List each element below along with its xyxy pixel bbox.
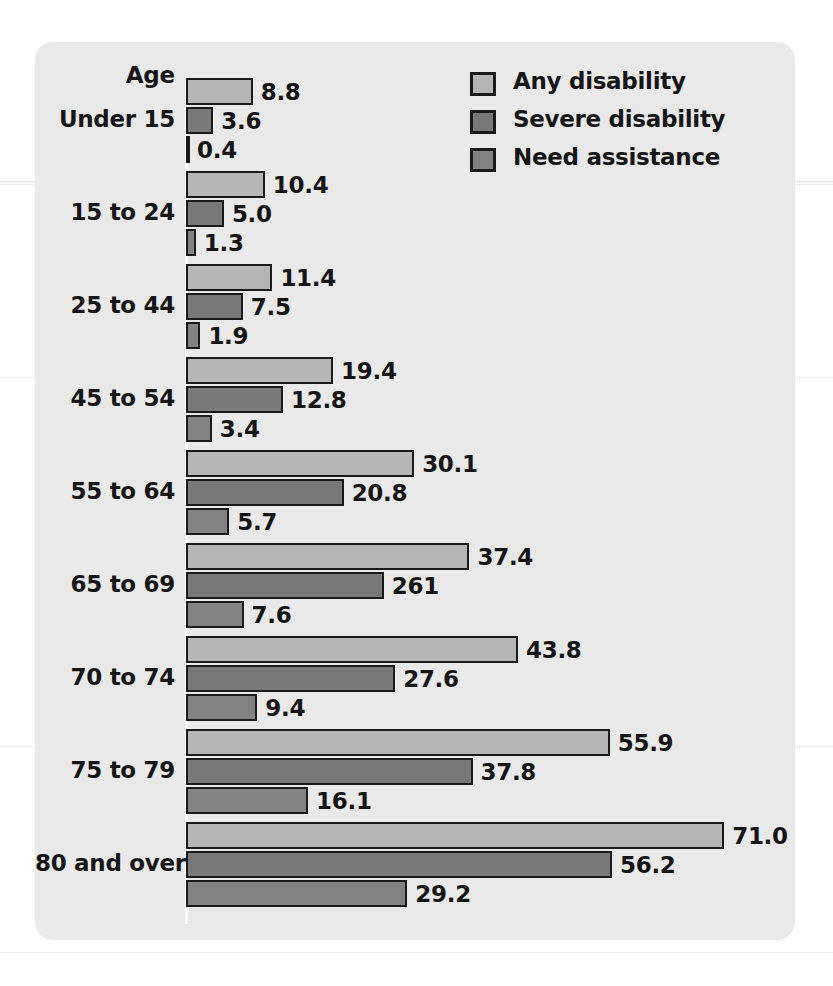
bar[interactable] bbox=[186, 264, 272, 291]
category-label: 75 to 79 bbox=[35, 757, 175, 783]
bar-value-label: 12.8 bbox=[291, 387, 347, 413]
chart-card: Age Under 158.83.60.415 to 2410.45.01.32… bbox=[35, 42, 795, 940]
bar-value-label: 27.6 bbox=[403, 666, 459, 692]
category-label: 45 to 54 bbox=[35, 385, 175, 411]
legend-label: Any disability bbox=[513, 68, 686, 94]
bar-value-label: 5.7 bbox=[237, 509, 277, 535]
bar-value-label: 10.4 bbox=[273, 172, 329, 198]
bar-group: 75 to 7955.937.816.1 bbox=[35, 727, 795, 820]
legend-swatch-icon bbox=[470, 110, 496, 134]
bar[interactable] bbox=[186, 293, 243, 320]
chart-legend: Any disabilitySevere disabilityNeed assi… bbox=[470, 68, 770, 182]
scan-artifact-line bbox=[0, 952, 833, 953]
bar[interactable] bbox=[186, 543, 469, 570]
legend-swatch-icon bbox=[470, 148, 496, 172]
bar[interactable] bbox=[186, 171, 265, 198]
bar-value-label: 1.9 bbox=[208, 323, 248, 349]
bar[interactable] bbox=[186, 107, 213, 134]
bar-value-label: 3.4 bbox=[220, 416, 260, 442]
bar[interactable] bbox=[186, 880, 407, 907]
bar[interactable] bbox=[186, 729, 610, 756]
bar[interactable] bbox=[186, 787, 308, 814]
bar-value-label: 37.4 bbox=[477, 544, 533, 570]
category-label: 80 and over bbox=[35, 850, 175, 876]
bar-group: 70 to 7443.827.69.4 bbox=[35, 634, 795, 727]
bar[interactable] bbox=[186, 136, 190, 163]
bar[interactable] bbox=[186, 694, 257, 721]
legend-item[interactable]: Any disability bbox=[470, 68, 770, 106]
bar-value-label: 71.0 bbox=[732, 823, 788, 849]
bar-value-label: 56.2 bbox=[620, 852, 676, 878]
bar-value-label: 9.4 bbox=[265, 695, 305, 721]
bar[interactable] bbox=[186, 200, 224, 227]
bar[interactable] bbox=[186, 479, 344, 506]
bar[interactable] bbox=[186, 508, 229, 535]
legend-item[interactable]: Severe disability bbox=[470, 106, 770, 144]
category-label: 70 to 74 bbox=[35, 664, 175, 690]
bar-value-label: 7.6 bbox=[252, 602, 292, 628]
category-label: Under 15 bbox=[35, 106, 175, 132]
bar-value-label: 3.6 bbox=[221, 108, 261, 134]
bar-group: 55 to 6430.120.85.7 bbox=[35, 448, 795, 541]
legend-label: Need assistance bbox=[513, 144, 720, 170]
bar-group: 25 to 4411.47.51.9 bbox=[35, 262, 795, 355]
bar[interactable] bbox=[186, 758, 473, 785]
category-label: 25 to 44 bbox=[35, 292, 175, 318]
bar-value-label: 0.4 bbox=[197, 137, 237, 163]
plot-area: Age Under 158.83.60.415 to 2410.45.01.32… bbox=[35, 42, 795, 940]
bar-value-label: 43.8 bbox=[526, 637, 582, 663]
bar[interactable] bbox=[186, 572, 384, 599]
bar-value-label: 5.0 bbox=[232, 201, 272, 227]
category-label: 15 to 24 bbox=[35, 199, 175, 225]
category-label: 55 to 64 bbox=[35, 478, 175, 504]
bar[interactable] bbox=[186, 450, 414, 477]
bar[interactable] bbox=[186, 601, 244, 628]
bar[interactable] bbox=[186, 415, 212, 442]
legend-swatch-icon bbox=[470, 72, 496, 96]
bar[interactable] bbox=[186, 386, 283, 413]
bar-value-label: 261 bbox=[392, 573, 439, 599]
bar[interactable] bbox=[186, 851, 612, 878]
bar-value-label: 8.8 bbox=[261, 79, 301, 105]
bar-value-label: 1.3 bbox=[204, 230, 244, 256]
bar-group: 45 to 5419.412.83.4 bbox=[35, 355, 795, 448]
bar-value-label: 55.9 bbox=[618, 730, 674, 756]
legend-item[interactable]: Need assistance bbox=[470, 144, 770, 182]
legend-label: Severe disability bbox=[513, 106, 725, 132]
bar[interactable] bbox=[186, 78, 253, 105]
bar-value-label: 37.8 bbox=[481, 759, 537, 785]
bar-value-label: 30.1 bbox=[422, 451, 478, 477]
bar-value-label: 20.8 bbox=[352, 480, 408, 506]
category-label: 65 to 69 bbox=[35, 571, 175, 597]
bar-value-label: 29.2 bbox=[415, 881, 471, 907]
bar-group: 65 to 6937.42617.6 bbox=[35, 541, 795, 634]
bar-group: 80 and over71.056.229.2 bbox=[35, 820, 795, 913]
bar-value-label: 11.4 bbox=[280, 265, 336, 291]
bar[interactable] bbox=[186, 665, 395, 692]
bar-value-label: 16.1 bbox=[316, 788, 372, 814]
bar[interactable] bbox=[186, 822, 724, 849]
bar-value-label: 7.5 bbox=[251, 294, 291, 320]
bar[interactable] bbox=[186, 229, 196, 256]
bar[interactable] bbox=[186, 636, 518, 663]
bar-value-label: 19.4 bbox=[341, 358, 397, 384]
bar[interactable] bbox=[186, 322, 200, 349]
bar[interactable] bbox=[186, 357, 333, 384]
bar-group: 15 to 2410.45.01.3 bbox=[35, 169, 795, 262]
